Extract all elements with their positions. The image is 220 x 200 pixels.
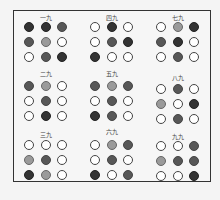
group-title: 三九 — [19, 131, 73, 139]
circle-icon — [189, 114, 199, 124]
circle-icon — [123, 22, 133, 32]
circle-icon — [57, 22, 67, 32]
circle-icon — [57, 81, 67, 91]
dot-group: 五九 — [85, 70, 139, 130]
circle-icon — [24, 111, 34, 121]
circle-icon — [24, 96, 34, 106]
circle-icon — [41, 111, 51, 121]
circle-icon — [57, 155, 67, 165]
circle-icon — [189, 171, 199, 181]
circle-icon — [90, 96, 100, 106]
circle-icon — [41, 22, 51, 32]
circle-icon — [107, 52, 117, 62]
circle-icon — [123, 81, 133, 91]
group-title: 四九 — [85, 14, 139, 22]
group-title: 八九 — [151, 74, 205, 82]
circle-icon — [24, 170, 34, 180]
circle-icon — [57, 140, 67, 150]
group-title: 一九 — [19, 14, 73, 22]
group-title: 二九 — [19, 70, 73, 78]
circle-icon — [156, 37, 166, 47]
circle-icon — [107, 170, 117, 180]
circle-icon — [189, 141, 199, 151]
circle-icon — [57, 37, 67, 47]
circle-icon — [156, 156, 166, 166]
circle-icon — [107, 96, 117, 106]
circle-icon — [173, 156, 183, 166]
circle-icon — [90, 155, 100, 165]
circle-icon — [173, 99, 183, 109]
group-title: 六九 — [85, 128, 139, 136]
circle-icon — [107, 140, 117, 150]
circle-icon — [156, 84, 166, 94]
circle-icon — [173, 114, 183, 124]
circle-icon — [90, 22, 100, 32]
circle-icon — [123, 37, 133, 47]
circle-icon — [107, 37, 117, 47]
circle-icon — [90, 52, 100, 62]
circle-icon — [156, 114, 166, 124]
circle-icon — [123, 111, 133, 121]
circle-icon — [173, 171, 183, 181]
circle-icon — [156, 141, 166, 151]
circle-icon — [173, 141, 183, 151]
circle-icon — [123, 155, 133, 165]
circle-icon — [57, 96, 67, 106]
circle-icon — [123, 140, 133, 150]
circle-icon — [24, 22, 34, 32]
circle-icon — [123, 170, 133, 180]
circle-icon — [156, 52, 166, 62]
dot-group: 三九 — [19, 131, 73, 191]
circle-icon — [41, 37, 51, 47]
circle-icon — [107, 155, 117, 165]
circle-icon — [189, 99, 199, 109]
circle-icon — [189, 84, 199, 94]
circle-icon — [173, 52, 183, 62]
circle-icon — [107, 22, 117, 32]
circle-icon — [107, 111, 117, 121]
circle-icon — [57, 170, 67, 180]
circle-icon — [24, 81, 34, 91]
circle-icon — [41, 140, 51, 150]
circle-icon — [189, 37, 199, 47]
circle-icon — [24, 155, 34, 165]
circle-icon — [57, 111, 67, 121]
circle-icon — [90, 37, 100, 47]
dot-group: 八九 — [151, 74, 205, 134]
circle-icon — [189, 156, 199, 166]
circle-icon — [173, 22, 183, 32]
circle-icon — [90, 140, 100, 150]
group-title: 七九 — [151, 14, 205, 22]
group-title: 九九 — [151, 133, 205, 141]
group-title: 五九 — [85, 70, 139, 78]
dot-group: 一九 — [19, 14, 73, 74]
dot-group: 二九 — [19, 70, 73, 130]
circle-icon — [41, 96, 51, 106]
circle-icon — [173, 84, 183, 94]
circle-icon — [107, 81, 117, 91]
circle-icon — [173, 37, 183, 47]
dot-group: 九九 — [151, 133, 205, 193]
circle-icon — [90, 170, 100, 180]
circle-icon — [90, 81, 100, 91]
circle-icon — [189, 22, 199, 32]
circle-icon — [24, 140, 34, 150]
circle-icon — [90, 111, 100, 121]
circle-icon — [24, 52, 34, 62]
circle-icon — [156, 171, 166, 181]
circle-icon — [41, 52, 51, 62]
circle-icon — [57, 52, 67, 62]
circle-icon — [156, 99, 166, 109]
dot-group: 六九 — [85, 128, 139, 188]
circle-icon — [41, 81, 51, 91]
circle-icon — [24, 37, 34, 47]
circle-icon — [156, 22, 166, 32]
dot-group: 七九 — [151, 14, 205, 74]
circle-icon — [123, 52, 133, 62]
circle-icon — [189, 52, 199, 62]
circle-icon — [123, 96, 133, 106]
circle-icon — [41, 170, 51, 180]
dot-group: 四九 — [85, 14, 139, 74]
circle-icon — [41, 155, 51, 165]
